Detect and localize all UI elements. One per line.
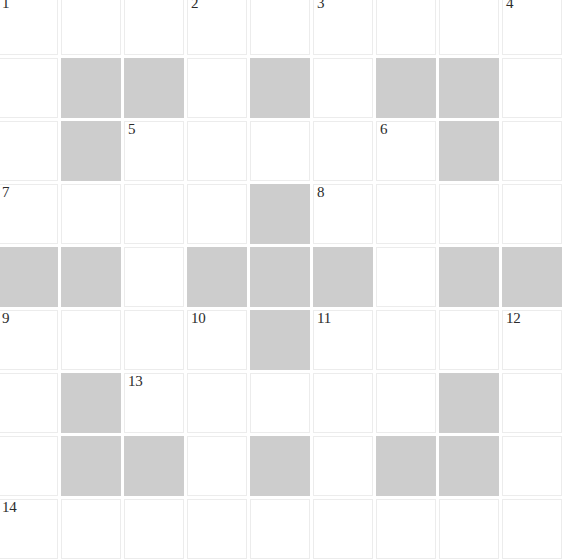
block-cell: [502, 247, 562, 307]
letter-cell[interactable]: [313, 58, 373, 118]
letter-cell[interactable]: 3: [313, 0, 373, 55]
letter-cell[interactable]: [61, 184, 121, 244]
letter-cell[interactable]: [61, 499, 121, 559]
letter-cell[interactable]: [313, 121, 373, 181]
block-cell: [439, 436, 499, 496]
clue-number: 13: [128, 374, 143, 389]
clue-number: 3: [317, 0, 324, 11]
block-cell: [376, 58, 436, 118]
letter-cell[interactable]: [124, 184, 184, 244]
block-cell: [439, 247, 499, 307]
letter-cell[interactable]: 8: [313, 184, 373, 244]
letter-cell[interactable]: [376, 247, 436, 307]
letter-cell[interactable]: [250, 373, 310, 433]
letter-cell[interactable]: [187, 58, 247, 118]
letter-cell[interactable]: 13: [124, 373, 184, 433]
letter-cell[interactable]: [187, 436, 247, 496]
block-cell: [439, 373, 499, 433]
block-cell: [187, 247, 247, 307]
letter-cell[interactable]: [0, 121, 58, 181]
letter-cell[interactable]: [250, 121, 310, 181]
clue-number: 10: [191, 311, 206, 326]
letter-cell[interactable]: [376, 310, 436, 370]
letter-cell[interactable]: [124, 310, 184, 370]
letter-cell[interactable]: 14: [0, 499, 58, 559]
letter-cell[interactable]: [502, 499, 562, 559]
crossword-grid[interactable]: 1234567891011121314: [0, 0, 562, 559]
letter-cell[interactable]: [0, 436, 58, 496]
clue-number: 7: [2, 185, 9, 200]
letter-cell[interactable]: 11: [313, 310, 373, 370]
letter-cell[interactable]: [124, 0, 184, 55]
letter-cell[interactable]: [61, 310, 121, 370]
letter-cell[interactable]: [439, 184, 499, 244]
letter-cell[interactable]: [187, 499, 247, 559]
letter-cell[interactable]: [439, 310, 499, 370]
letter-cell[interactable]: 2: [187, 0, 247, 55]
block-cell: [313, 247, 373, 307]
clue-number: 1: [2, 0, 9, 11]
block-cell: [61, 121, 121, 181]
clue-number: 12: [506, 311, 521, 326]
block-cell: [250, 247, 310, 307]
block-cell: [61, 436, 121, 496]
letter-cell[interactable]: [502, 58, 562, 118]
clue-number: 8: [317, 185, 324, 200]
clue-number: 6: [380, 122, 387, 137]
letter-cell[interactable]: [124, 499, 184, 559]
letter-cell[interactable]: [187, 373, 247, 433]
letter-cell[interactable]: [187, 121, 247, 181]
block-cell: [250, 436, 310, 496]
block-cell: [439, 121, 499, 181]
clue-number: 4: [506, 0, 513, 11]
letter-cell[interactable]: [124, 247, 184, 307]
letter-cell[interactable]: [0, 373, 58, 433]
letter-cell[interactable]: 9: [0, 310, 58, 370]
letter-cell[interactable]: 5: [124, 121, 184, 181]
block-cell: [124, 58, 184, 118]
letter-cell[interactable]: [439, 499, 499, 559]
letter-cell[interactable]: 4: [502, 0, 562, 55]
block-cell: [250, 184, 310, 244]
letter-cell[interactable]: [502, 184, 562, 244]
block-cell: [61, 373, 121, 433]
letter-cell[interactable]: [313, 499, 373, 559]
letter-cell[interactable]: [376, 373, 436, 433]
letter-cell[interactable]: [187, 184, 247, 244]
letter-cell[interactable]: [376, 184, 436, 244]
block-cell: [376, 436, 436, 496]
letter-cell[interactable]: [502, 121, 562, 181]
letter-cell[interactable]: [502, 373, 562, 433]
letter-cell[interactable]: 12: [502, 310, 562, 370]
letter-cell[interactable]: 10: [187, 310, 247, 370]
letter-cell[interactable]: [376, 499, 436, 559]
letter-cell[interactable]: 6: [376, 121, 436, 181]
letter-cell[interactable]: [502, 436, 562, 496]
letter-cell[interactable]: [250, 499, 310, 559]
block-cell: [439, 58, 499, 118]
letter-cell[interactable]: [313, 373, 373, 433]
block-cell: [61, 247, 121, 307]
block-cell: [124, 436, 184, 496]
clue-number: 5: [128, 122, 135, 137]
letter-cell[interactable]: [313, 436, 373, 496]
letter-cell[interactable]: [0, 58, 58, 118]
letter-cell[interactable]: [439, 0, 499, 55]
letter-cell[interactable]: 7: [0, 184, 58, 244]
letter-cell[interactable]: 1: [0, 0, 58, 55]
block-cell: [61, 58, 121, 118]
letter-cell[interactable]: [250, 0, 310, 55]
clue-number: 2: [191, 0, 198, 11]
clue-number: 11: [317, 311, 331, 326]
letter-cell[interactable]: [61, 0, 121, 55]
block-cell: [250, 58, 310, 118]
letter-cell[interactable]: [376, 0, 436, 55]
block-cell: [0, 247, 58, 307]
clue-number: 9: [2, 311, 9, 326]
block-cell: [250, 310, 310, 370]
clue-number: 14: [2, 500, 17, 515]
